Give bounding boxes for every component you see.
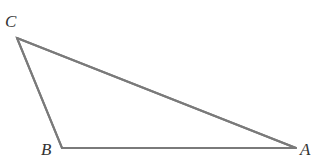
edge-cb (17, 38, 62, 148)
vertex-label-b: B (41, 140, 52, 159)
triangle-diagram: C B A (0, 0, 326, 165)
vertex-label-c: C (5, 12, 17, 31)
vertex-label-a: A (299, 140, 311, 159)
edge-ac (17, 38, 296, 148)
